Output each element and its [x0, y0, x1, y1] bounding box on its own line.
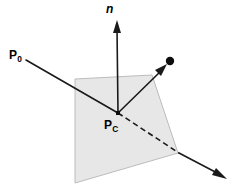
intersection-point-label: PC [104, 119, 118, 131]
ray-origin-label-text: P [9, 48, 17, 62]
intersection-label-subscript: C [112, 124, 118, 134]
transmitted-ray-arrowhead [212, 168, 227, 179]
intersection-label-text: P [104, 118, 112, 132]
geometry-canvas [0, 0, 240, 189]
normal-vector-label: n [106, 3, 113, 15]
normal-label-text: n [106, 2, 113, 16]
ray-origin-label-subscript: 0 [17, 54, 22, 64]
plane-polygon [75, 75, 178, 183]
ray-plane-diagram: n P0 PC [0, 0, 240, 189]
endpoint-dot [166, 57, 174, 65]
normal-vector-shaft [117, 28, 118, 113]
ray-origin-label: P0 [9, 49, 22, 61]
intersection-point-marker [116, 111, 120, 115]
normal-vector-arrowhead [113, 20, 121, 33]
